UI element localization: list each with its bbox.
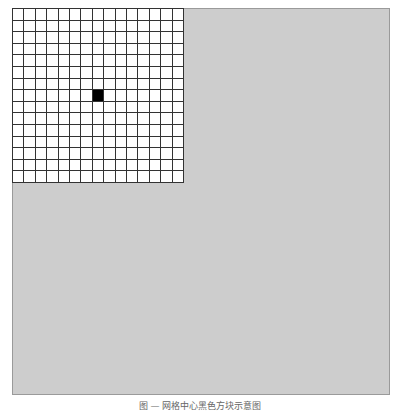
grid-cell — [92, 54, 103, 66]
grid-cell — [23, 147, 34, 159]
grid-cell — [172, 147, 183, 159]
grid-cell — [69, 31, 80, 43]
highlighted-cell — [92, 89, 103, 101]
grid-cell — [69, 78, 80, 90]
grid-cell — [46, 31, 57, 43]
grid-cell — [126, 159, 137, 171]
grid-cell — [126, 43, 137, 55]
grid-cell — [35, 159, 46, 171]
grid-cell — [115, 8, 126, 20]
grid-cell — [149, 112, 160, 124]
grid-cell — [172, 43, 183, 55]
grid-cell — [172, 8, 183, 20]
grid-cell — [46, 78, 57, 90]
grid-cell — [12, 124, 23, 136]
grid-cell — [160, 54, 171, 66]
grid-cell — [172, 66, 183, 78]
grid-cell — [69, 43, 80, 55]
grid-cell — [126, 8, 137, 20]
grid-cell — [80, 20, 91, 32]
grid-cell — [12, 54, 23, 66]
grid-cell — [126, 170, 137, 182]
grid-cell — [103, 78, 114, 90]
grid-cell — [58, 159, 69, 171]
grid-cell — [149, 20, 160, 32]
grid-cell — [46, 112, 57, 124]
grid-cell — [23, 112, 34, 124]
grid-cell — [137, 170, 148, 182]
grid-cell — [12, 170, 23, 182]
grid-cell — [149, 170, 160, 182]
grid-cell — [46, 159, 57, 171]
grid-cell — [58, 101, 69, 113]
grid-cell — [126, 112, 137, 124]
grid-cell — [103, 124, 114, 136]
grid-cell — [137, 101, 148, 113]
grid-cell — [46, 124, 57, 136]
grid-cell — [160, 8, 171, 20]
grid-cell — [172, 89, 183, 101]
grid-cell — [12, 112, 23, 124]
grid-cell — [58, 170, 69, 182]
grid-cell — [58, 124, 69, 136]
grid-cell — [137, 66, 148, 78]
grid-cell — [149, 159, 160, 171]
grid-cell — [46, 66, 57, 78]
grid-cell — [80, 147, 91, 159]
grid-cell — [35, 8, 46, 20]
grid-cell — [69, 112, 80, 124]
grid-cell — [23, 43, 34, 55]
grid-cell — [137, 147, 148, 159]
grid-cell — [35, 20, 46, 32]
grid-cell — [58, 20, 69, 32]
grid-cell — [46, 54, 57, 66]
grid-cell — [58, 136, 69, 148]
grid-cell — [23, 54, 34, 66]
grid-cell — [126, 78, 137, 90]
grid-cell — [12, 43, 23, 55]
grid-cell — [137, 136, 148, 148]
grid-cell — [46, 8, 57, 20]
grid-cell — [103, 147, 114, 159]
grid-cell — [92, 66, 103, 78]
grid-cell — [115, 78, 126, 90]
grid-cell — [46, 101, 57, 113]
grid-cell — [126, 89, 137, 101]
grid-cell — [172, 20, 183, 32]
grid-cell — [92, 112, 103, 124]
grid-cell — [92, 43, 103, 55]
grid-cell — [12, 101, 23, 113]
grid-cell — [23, 101, 34, 113]
grid-cell — [58, 31, 69, 43]
grid-cell — [160, 112, 171, 124]
grid-cell — [137, 89, 148, 101]
grid-cell — [103, 101, 114, 113]
grid-cell — [69, 124, 80, 136]
grid-cell — [115, 170, 126, 182]
grid-cell — [160, 31, 171, 43]
grid-cell — [12, 89, 23, 101]
grid-cell — [69, 159, 80, 171]
grid-cell — [115, 136, 126, 148]
grid-cell — [172, 78, 183, 90]
grid-cell — [12, 136, 23, 148]
grid-cell — [172, 170, 183, 182]
grid-cell — [149, 66, 160, 78]
grid-cell — [137, 112, 148, 124]
grid-cell — [92, 159, 103, 171]
grid-cell — [23, 66, 34, 78]
grid-cell — [92, 170, 103, 182]
grid-cell — [69, 8, 80, 20]
grid-cell — [115, 101, 126, 113]
grid-cell — [58, 89, 69, 101]
grid-cell — [80, 31, 91, 43]
figure-caption: 图 — 网格中心黑色方块示意图 — [0, 400, 400, 412]
grid-cell — [80, 136, 91, 148]
grid-cell — [92, 31, 103, 43]
grid-cell — [115, 20, 126, 32]
grid-cell — [126, 136, 137, 148]
grid-cell — [126, 101, 137, 113]
grid-cell — [103, 66, 114, 78]
grid-cell — [69, 89, 80, 101]
grid-cell — [126, 20, 137, 32]
